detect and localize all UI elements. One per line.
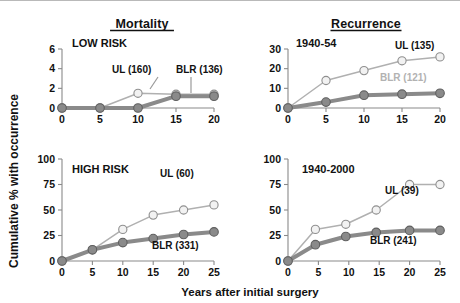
x-tick-label: 15 xyxy=(147,266,159,278)
y-tick-label: 25 xyxy=(269,229,281,241)
data-point xyxy=(210,228,219,237)
data-point xyxy=(149,211,157,219)
x-tick-label: 15 xyxy=(170,113,182,125)
data-point xyxy=(436,226,445,235)
x-tick-label: 10 xyxy=(117,266,129,278)
y-tick-label: 50 xyxy=(43,204,55,216)
data-point xyxy=(134,89,142,97)
y-tick-label: 10 xyxy=(269,82,281,94)
y-tick-label: 75 xyxy=(43,178,55,190)
data-point xyxy=(322,76,330,84)
panel-title-recurrence-1940-54: 1940-54 xyxy=(296,37,337,49)
x-tick-label: 0 xyxy=(285,266,291,278)
x-tick-label: 5 xyxy=(97,113,103,125)
x-tick-label: 25 xyxy=(208,266,220,278)
data-point xyxy=(172,92,181,101)
series-label-ul: UL (135) xyxy=(395,40,434,51)
series-label-ul: UL (39) xyxy=(385,185,419,196)
y-tick-label: 6 xyxy=(49,43,55,55)
x-tick-label: 10 xyxy=(343,266,355,278)
series-label-blr: BLR (136) xyxy=(176,64,223,75)
y-tick-label: 75 xyxy=(269,178,281,190)
data-point xyxy=(311,225,319,233)
data-point xyxy=(360,91,369,100)
panel-recurrence-1940-2000: 025507510005101520251940-2000UL (39)BLR … xyxy=(263,153,446,278)
x-tick-label: 5 xyxy=(315,266,321,278)
x-tick-label: 0 xyxy=(59,113,65,125)
series-label-blr: BLR (331) xyxy=(152,240,199,251)
data-point xyxy=(436,53,444,61)
x-axis-title: Years after initial surgery xyxy=(181,286,319,298)
y-tick-label: 100 xyxy=(37,153,55,165)
x-tick-label: 15 xyxy=(373,266,385,278)
data-point xyxy=(134,104,143,113)
y-tick-label: 4 xyxy=(49,62,55,74)
data-point xyxy=(398,57,406,65)
series-label-blr: BLR (121) xyxy=(380,72,427,83)
x-tick-label: 5 xyxy=(323,113,329,125)
data-point xyxy=(322,98,331,107)
x-tick-label: 20 xyxy=(178,266,190,278)
x-tick-label: 0 xyxy=(285,113,291,125)
panel-title-mortality-low-risk: LOW RISK xyxy=(72,37,127,49)
data-point xyxy=(284,104,293,113)
data-point xyxy=(311,240,320,249)
y-tick-label: 0 xyxy=(275,102,281,114)
data-point xyxy=(436,180,444,188)
data-point xyxy=(360,67,368,75)
column-title-mortality: Mortality xyxy=(110,17,174,31)
data-point xyxy=(405,226,414,235)
y-axis-title: Cumulative % with occurrence xyxy=(7,94,21,268)
series-label-ul: UL (160) xyxy=(112,64,151,75)
y-tick-label: 2 xyxy=(49,82,55,94)
series-label-blr: BLR (241) xyxy=(370,235,417,246)
x-tick-label: 20 xyxy=(208,113,220,125)
y-tick-label: 0 xyxy=(275,255,281,267)
x-tick-label: 25 xyxy=(434,266,446,278)
x-tick-label: 20 xyxy=(404,266,416,278)
data-point xyxy=(398,90,407,99)
panel-mortality-low-risk: 024605101520LOW RISKUL (160)BLR (136) xyxy=(49,37,223,125)
data-point xyxy=(180,206,188,214)
y-tick-label: 50 xyxy=(269,204,281,216)
data-point xyxy=(119,225,127,233)
data-point xyxy=(58,257,67,266)
y-tick-label: 0 xyxy=(49,255,55,267)
column-title-recurrence: Recurrence xyxy=(331,17,402,31)
x-tick-label: 0 xyxy=(59,266,65,278)
column-title-text: Recurrence xyxy=(331,17,401,31)
figure-container: MortalityRecurrenceCumulative % with occ… xyxy=(0,0,460,303)
data-point xyxy=(210,201,218,209)
x-tick-label: 10 xyxy=(132,113,144,125)
x-tick-label: 15 xyxy=(396,113,408,125)
data-point xyxy=(342,232,351,241)
series-recurrence-1940-2000-ul xyxy=(284,180,444,265)
panel-title-mortality-high-risk: HIGH RISK xyxy=(72,163,129,175)
y-tick-label: 30 xyxy=(269,43,281,55)
series-label-ul: UL (60) xyxy=(160,168,194,179)
data-point xyxy=(210,92,219,101)
data-point xyxy=(88,246,97,255)
data-point xyxy=(284,257,293,266)
column-title-text: Mortality xyxy=(116,17,169,31)
x-tick-label: 5 xyxy=(89,266,95,278)
series-recurrence-1940-2000-blr xyxy=(284,226,445,265)
data-point xyxy=(179,230,188,239)
y-tick-label: 20 xyxy=(269,62,281,74)
x-tick-label: 20 xyxy=(434,113,446,125)
x-tick-label: 10 xyxy=(358,113,370,125)
data-point xyxy=(58,104,67,113)
multi-panel-line-chart: MortalityRecurrenceCumulative % with occ… xyxy=(0,1,460,303)
annotation-leader-line xyxy=(150,77,158,89)
data-point xyxy=(372,206,380,214)
data-point xyxy=(119,238,128,247)
panel-mortality-high-risk: 02550751000510152025HIGH RISKUL (60)BLR … xyxy=(37,153,220,278)
y-tick-label: 25 xyxy=(43,229,55,241)
y-tick-label: 0 xyxy=(49,102,55,114)
panel-title-recurrence-1940-2000: 1940-2000 xyxy=(302,163,355,175)
data-point xyxy=(342,220,350,228)
panel-recurrence-1940-54: 0102030051015201940-54UL (135)BLR (121) xyxy=(269,37,446,125)
y-tick-label: 100 xyxy=(263,153,281,165)
data-point xyxy=(436,89,445,98)
data-point xyxy=(96,104,105,113)
